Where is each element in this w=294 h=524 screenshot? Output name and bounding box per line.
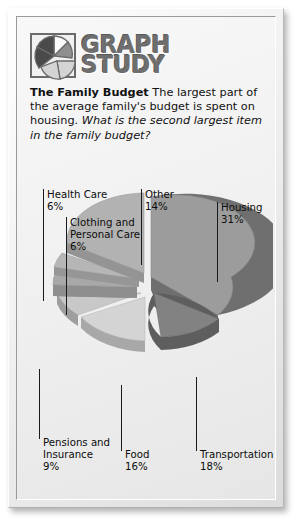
label-health-care: Health Care 6% xyxy=(43,189,107,213)
label-clothing: Clothing and Personal Care 6% xyxy=(66,217,140,254)
label-housing: Housing 31% xyxy=(217,202,262,226)
label-health-care-name: Health Care xyxy=(47,189,107,201)
intro-paragraph: The Family Budget The largest part of th… xyxy=(30,86,270,143)
label-other: Other 14% xyxy=(141,189,174,213)
label-transportation-name: Transportation xyxy=(200,449,274,461)
leader-line-food xyxy=(121,385,122,451)
label-food-pct: 16% xyxy=(125,461,149,473)
label-housing-name: Housing xyxy=(221,202,262,214)
graph-study-card: GRAPH STUDY The Family Budget The larges… xyxy=(8,8,284,508)
label-other-name: Other xyxy=(145,189,174,201)
label-clothing-name2: Personal Care xyxy=(70,229,140,241)
label-clothing-pct: 6% xyxy=(70,241,140,253)
label-transportation-pct: 18% xyxy=(200,461,274,473)
label-pensions-pct: 9% xyxy=(43,461,110,473)
label-food-name: Food xyxy=(125,449,149,461)
logo-wordmark: GRAPH STUDY xyxy=(81,35,177,76)
leader-line-pensions xyxy=(39,369,40,439)
page-title: The Family Budget xyxy=(30,86,149,99)
label-pensions-name2: Insurance xyxy=(43,449,110,461)
pie-chart: Health Care 6% Clothing and Personal Car… xyxy=(17,137,275,497)
label-pensions-name: Pensions and xyxy=(43,437,110,449)
graph-study-logo: GRAPH STUDY xyxy=(30,31,177,79)
pie-chart-icon xyxy=(30,33,76,78)
label-food: Food 16% xyxy=(121,449,149,473)
label-pensions: Pensions and Insurance 9% xyxy=(39,437,110,474)
label-other-pct: 14% xyxy=(145,201,174,213)
label-housing-pct: 31% xyxy=(221,214,262,226)
leader-line-transportation xyxy=(196,377,197,451)
logo-line-2: STUDY xyxy=(81,55,170,76)
label-clothing-name: Clothing and xyxy=(70,217,140,229)
label-transportation: Transportation 18% xyxy=(196,449,274,473)
label-health-care-pct: 6% xyxy=(47,201,107,213)
card-inner-panel: GRAPH STUDY The Family Budget The larges… xyxy=(16,16,276,500)
